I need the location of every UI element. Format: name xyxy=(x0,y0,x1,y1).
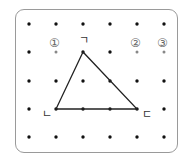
grid-dot xyxy=(81,135,84,138)
triangle xyxy=(56,52,137,109)
grid-dot xyxy=(108,50,111,53)
grid-dot xyxy=(162,107,165,110)
option-3-label[interactable]: ③ xyxy=(157,36,168,50)
grid-dot xyxy=(27,50,30,53)
grid-dot xyxy=(162,22,165,25)
grid-dot xyxy=(81,79,84,82)
grid-dot xyxy=(108,135,111,138)
grid-dot xyxy=(81,22,84,25)
grid-dot xyxy=(135,22,138,25)
grid-dot xyxy=(54,22,57,25)
grid-dot xyxy=(27,79,30,82)
grid-dot xyxy=(27,22,30,25)
option-dot[interactable] xyxy=(163,51,166,54)
vertex-label-top: ㄱ xyxy=(79,34,89,47)
vertex-label-left: ㄴ xyxy=(42,108,52,121)
grid-dot xyxy=(135,135,138,138)
grid-dot xyxy=(27,107,30,110)
geoboard-diagram: ㄱ ㄴ ㄷ ① ② ③ xyxy=(0,0,188,165)
grid-dot xyxy=(162,135,165,138)
grid-dot xyxy=(108,22,111,25)
grid-dot xyxy=(54,135,57,138)
option-2-label[interactable]: ② xyxy=(130,36,141,50)
option-dot[interactable] xyxy=(136,51,139,54)
grid-dot xyxy=(162,79,165,82)
grid-dot xyxy=(54,79,57,82)
option-1-label[interactable]: ① xyxy=(49,36,60,50)
vertex-label-right: ㄷ xyxy=(142,108,152,121)
option-dot[interactable] xyxy=(55,51,58,54)
grid-dot xyxy=(135,79,138,82)
grid-dot xyxy=(27,135,30,138)
